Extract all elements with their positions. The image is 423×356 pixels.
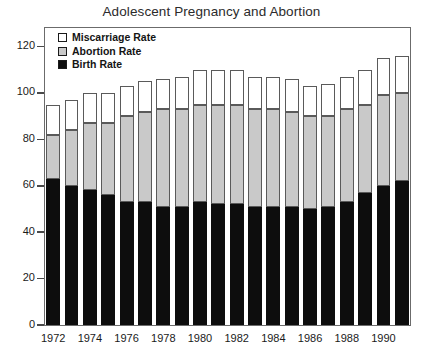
bar-1985[interactable] [285,79,299,325]
bar-segment [358,70,372,105]
bar-1972[interactable] [46,105,60,325]
bar-1991[interactable] [395,56,409,325]
bar-1986[interactable] [303,86,317,325]
bar-segment [83,123,97,190]
chart-legend: Miscarriage RateAbortion RateBirth Rate [58,32,156,70]
legend-swatch-icon [58,60,67,69]
bar-segment [321,116,335,206]
bar-segment [156,79,170,109]
bar-segment [101,93,115,123]
bar-segment [395,181,409,325]
legend-item[interactable]: Miscarriage Rate [58,32,156,43]
bar-segment [211,70,225,105]
bar-segment [358,193,372,325]
bar-1979[interactable] [175,77,189,325]
bar-segment [46,179,60,325]
bar-segment [285,207,299,325]
bar-1980[interactable] [193,70,207,325]
bar-segment [248,77,262,109]
legend-item-label: Birth Rate [72,59,122,70]
bar-segment [377,58,391,95]
bar-segment [340,109,354,202]
bar-segment [248,109,262,206]
bar-segment [266,77,280,109]
bar-1973[interactable] [65,100,79,325]
bar-segment [193,105,207,202]
bar-segment [377,95,391,185]
bar-segment [138,81,152,111]
bar-segment [285,79,299,111]
bar-segment [65,186,79,325]
bar-segment [303,116,317,209]
bar-segment [138,112,152,202]
bar-segment [321,207,335,325]
legend-item-label: Abortion Rate [72,46,141,57]
bar-segment [230,105,244,205]
bar-segment [193,202,207,325]
bar-segment [175,207,189,325]
bar-segment [211,204,225,325]
bar-segment [120,116,134,202]
bar-1989[interactable] [358,70,372,325]
bar-segment [101,195,115,325]
bar-1978[interactable] [156,79,170,325]
bar-segment [266,207,280,325]
bar-segment [138,202,152,325]
bar-1983[interactable] [248,77,262,325]
bar-segment [285,112,299,207]
bar-1975[interactable] [101,93,115,325]
bar-1982[interactable] [230,70,244,325]
chart-container: Adolescent Pregnancy and Abortion 020406… [0,0,423,356]
bar-segment [321,84,335,116]
legend-item-label: Miscarriage Rate [72,32,156,43]
bar-segment [395,93,409,181]
bar-1977[interactable] [138,81,152,325]
legend-item[interactable]: Birth Rate [58,59,156,70]
bar-segment [340,202,354,325]
legend-swatch-icon [58,33,67,42]
bar-1984[interactable] [266,77,280,325]
legend-item[interactable]: Abortion Rate [58,46,156,57]
bar-segment [46,135,60,179]
bar-segment [101,123,115,195]
bar-1976[interactable] [120,86,134,325]
bar-segment [377,186,391,325]
bar-1988[interactable] [340,77,354,325]
bar-segment [230,70,244,105]
bar-segment [65,130,79,186]
bar-segment [156,207,170,325]
bar-segment [83,190,97,325]
bar-1981[interactable] [211,70,225,325]
bar-segment [248,207,262,325]
bar-segment [120,202,134,325]
bar-segment [120,86,134,116]
bar-segment [46,105,60,135]
bar-segment [303,86,317,116]
bar-segment [193,70,207,105]
bar-1974[interactable] [83,93,97,325]
bar-segment [175,109,189,206]
bar-segment [211,105,225,205]
bar-1990[interactable] [377,58,391,325]
bar-segment [65,100,79,130]
bar-segment [156,109,170,206]
bar-segment [340,77,354,109]
bar-segment [303,209,317,325]
bar-1987[interactable] [321,84,335,325]
bar-segment [395,56,409,93]
bar-segment [358,105,372,193]
bar-segment [83,93,97,123]
bar-segment [175,77,189,109]
bar-segment [266,109,280,206]
legend-swatch-icon [58,47,67,56]
bar-segment [230,204,244,325]
